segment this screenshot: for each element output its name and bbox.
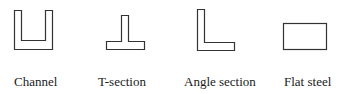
t-section-label: T-section — [98, 75, 146, 89]
t-section-shape — [107, 16, 145, 50]
channel-shape — [15, 11, 53, 50]
channel-label: Channel — [14, 75, 57, 89]
steel-sections-diagram: Channel T-section Angle section Flat ste… — [0, 0, 343, 94]
flat-steel-label: Flat steel — [284, 75, 331, 89]
angle-section-label: Angle section — [184, 75, 256, 89]
angle-section-shape — [198, 10, 235, 51]
flat-steel-shape — [284, 24, 327, 50]
